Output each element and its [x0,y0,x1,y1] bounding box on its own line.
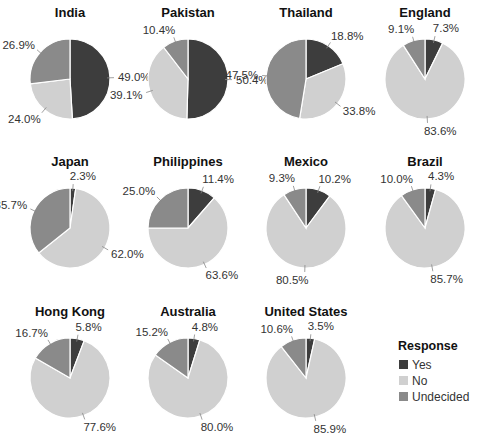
pie-value-label: 2.3% [70,170,96,182]
pie-slice-undecided [30,39,70,84]
pie-value-label: 7.3% [433,22,459,34]
pie-philippines: Philippines11.4%63.6%25.0% [123,154,239,281]
pie-title: England [399,5,450,20]
leader-line [73,184,74,191]
pie-pakistan: Pakistan50.4%39.1%10.4% [110,5,269,119]
pie-value-label: 49.0% [118,71,151,83]
legend: Response Yes No Undecided [398,339,469,404]
pie-value-label: 10.4% [143,24,176,36]
pie-value-label: 18.8% [331,30,364,42]
pie-value-label: 26.9% [2,39,35,51]
pie-title: Thailand [279,5,333,20]
pie-value-label: 16.7% [15,327,48,339]
pie-chart-grid: India49.0%24.0%26.9%Pakistan50.4%39.1%10… [0,0,484,439]
pie-value-label: 5.8% [75,321,101,333]
pie-value-label: 83.6% [424,125,457,137]
legend-swatch-no [399,376,408,385]
legend-swatch-undecided [399,392,408,401]
pie-value-label: 35.7% [0,199,27,211]
pie-title: India [55,5,86,20]
legend-swatch-yes [399,360,408,369]
pie-value-label: 3.5% [308,320,334,332]
pie-value-label: 10.6% [260,323,293,335]
pie-value-label: 9.1% [388,23,414,35]
pie-mexico: Mexico10.2%80.5%9.3% [266,154,351,286]
pie-value-label: 47.5% [226,69,259,81]
pie-value-label: 85.7% [430,273,463,285]
pie-value-label: 25.0% [123,185,156,197]
pie-india: India49.0%24.0%26.9% [2,5,150,125]
pie-value-label: 24.0% [8,113,41,125]
pie-value-label: 10.2% [318,173,351,185]
pie-value-label: 33.8% [343,105,376,117]
pie-title: Mexico [284,154,328,169]
pie-value-label: 4.8% [192,321,218,333]
pie-united-states: United States3.5%85.9%10.6% [260,304,347,435]
legend-title: Response [398,339,458,353]
legend-label-yes: Yes [412,358,432,372]
pie-title: Philippines [153,154,222,169]
pie-thailand: Thailand18.8%33.8%47.5% [226,5,376,119]
pie-value-label: 39.1% [110,89,143,101]
pie-title: Japan [51,154,89,169]
pie-slice-undecided [266,39,306,118]
pie-value-label: 80.0% [201,421,234,433]
legend-label-no: No [412,374,428,388]
pie-brazil: Brazil4.3%85.7%10.0% [380,154,465,285]
pie-charts: India49.0%24.0%26.9%Pakistan50.4%39.1%10… [0,5,465,435]
pie-value-label: 11.4% [202,173,234,185]
pie-title: Hong Kong [35,304,105,319]
pie-value-label: 62.0% [111,248,144,260]
pie-slice-yes [70,39,110,119]
pie-value-label: 9.3% [269,172,295,184]
pie-value-label: 10.0% [380,173,413,185]
leader-line [262,75,269,76]
pie-hong-kong: Hong Kong5.8%77.6%16.7% [15,304,116,433]
legend-label-undecided: Undecided [412,390,469,404]
pie-value-label: 77.6% [83,421,116,433]
pie-title: Pakistan [161,5,215,20]
pie-england: England7.3%83.6%9.1% [385,5,465,137]
pie-value-label: 80.5% [276,274,309,286]
pie-value-label: 63.6% [206,269,239,281]
pie-title: Australia [160,304,216,319]
pie-slice-yes [187,39,228,119]
pie-australia: Australia4.8%80.0%15.2% [135,304,233,433]
pie-value-label: 15.2% [135,326,168,338]
pie-title: Brazil [407,154,442,169]
pie-value-label: 85.9% [314,423,347,435]
pie-value-label: 4.3% [428,170,454,182]
pie-japan: Japan2.3%62.0%35.7% [0,154,144,268]
pie-title: United States [264,304,347,319]
